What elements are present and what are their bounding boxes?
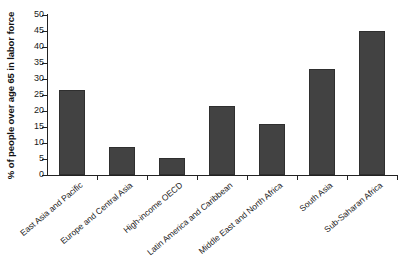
y-tick-label: 25 (34, 89, 44, 99)
x-axis-line (47, 175, 398, 176)
x-axis-label: Sub-Saharan Africa (322, 180, 384, 234)
x-tick-mark (197, 175, 198, 180)
y-tick-label: 35 (34, 57, 44, 67)
y-axis-title-text: % of people over age 65 in labor force (6, 11, 17, 178)
x-axis-label: East Asia and Pacific (18, 180, 84, 238)
y-tick-label: 45 (34, 25, 44, 35)
y-tick-label: 5 (39, 153, 44, 163)
y-tick-label: 30 (34, 73, 44, 83)
bar (209, 106, 235, 175)
x-axis-label: Middle East and North Africa (197, 180, 285, 256)
bar-chart-figure: % of people over age 65 in labor force 0… (0, 0, 415, 280)
x-axis-label: Latin America and Caribbean (145, 180, 234, 257)
y-tick-label: 10 (34, 137, 44, 147)
y-axis-title: % of people over age 65 in labor force (0, 0, 22, 190)
bar (159, 158, 185, 175)
bar (309, 69, 335, 175)
bar (109, 147, 135, 175)
bar (359, 31, 385, 175)
plot-area: 05101520253035404550 (47, 15, 397, 175)
y-tick-label: 20 (34, 105, 44, 115)
x-tick-mark (147, 175, 148, 180)
y-tick-label: 40 (34, 41, 44, 51)
bar (259, 124, 285, 175)
x-tick-mark (297, 175, 298, 180)
x-tick-mark (97, 175, 98, 180)
bar (59, 90, 85, 175)
y-tick-label: 0 (39, 169, 44, 179)
x-tick-mark (247, 175, 248, 180)
x-axis-label: Europe and Central Asia (58, 180, 134, 246)
x-tick-mark (347, 175, 348, 180)
x-axis-label: South Asia (297, 180, 334, 213)
x-axis-label: High-income OECD (121, 180, 184, 235)
y-tick-label: 50 (34, 9, 44, 19)
x-tick-mark (397, 175, 398, 180)
y-tick-label: 15 (34, 121, 44, 131)
